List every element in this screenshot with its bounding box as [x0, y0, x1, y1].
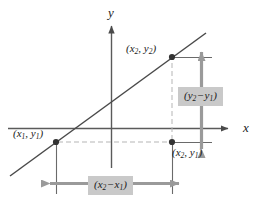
- paren-close: ): [198, 146, 202, 158]
- slope-diagram-figure: y x (x1, y1) (x2, y2) (x2, y1) (y2−y1) (…: [0, 0, 259, 203]
- paren-close: ): [123, 178, 127, 190]
- paren-close: ): [152, 42, 156, 54]
- point-x2y1: [169, 139, 175, 145]
- minus-operator: −: [106, 178, 114, 190]
- x-axis-label: x: [243, 121, 249, 134]
- point-label-x2y1: (x2, y1): [172, 147, 202, 159]
- paren-close: ): [213, 89, 217, 101]
- rise-label: (y2−y1): [178, 87, 223, 106]
- run-label: (x2−x1): [88, 176, 133, 195]
- point-label-x1y1: (x1, y1): [13, 128, 43, 140]
- point-x1y1: [53, 139, 59, 145]
- point-x2y2: [169, 54, 175, 60]
- y-axis-label: y: [108, 6, 114, 19]
- paren-close: ): [39, 127, 43, 139]
- point-label-x2y2: (x2, y2): [126, 43, 156, 55]
- minus-operator: −: [196, 89, 204, 101]
